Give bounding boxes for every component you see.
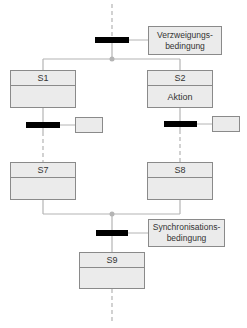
step-s8-name: S8 [148, 163, 212, 178]
step-s9[interactable]: S9 [79, 252, 145, 289]
step-s9-action [80, 268, 144, 291]
sync-condition-line1: Synchronisations- [153, 222, 221, 233]
sync-condition-line2: bedingung [153, 233, 221, 244]
step-s8[interactable]: S8 [147, 162, 213, 200]
step-s1[interactable]: S1 [10, 70, 76, 108]
step-s7[interactable]: S7 [10, 162, 76, 200]
sync-condition-box[interactable]: Synchronisations- bedingung [148, 219, 225, 247]
transition-condition-right-box[interactable] [212, 116, 240, 132]
step-s2-action: Aktion [148, 86, 212, 109]
branch-transition-bar[interactable] [95, 37, 129, 43]
branch-condition-line1: Verzweigungs- [157, 30, 213, 41]
step-s1-name: S1 [11, 71, 75, 86]
step-s8-action [148, 178, 212, 201]
step-s2-name: S2 [148, 71, 212, 86]
step-s1-action [11, 86, 75, 109]
step-s9-name: S9 [80, 253, 144, 268]
branch-condition-box[interactable]: Verzweigungs- bedingung [148, 26, 222, 55]
transition-bar-right[interactable] [164, 121, 197, 127]
transition-condition-left-box[interactable] [75, 117, 103, 133]
sync-transition-bar[interactable] [96, 230, 128, 236]
step-s7-name: S7 [11, 163, 75, 178]
branch-condition-line2: bedingung [157, 41, 213, 52]
step-s2[interactable]: S2 Aktion [147, 70, 213, 108]
step-s7-action [11, 178, 75, 201]
transition-bar-left[interactable] [26, 122, 60, 128]
